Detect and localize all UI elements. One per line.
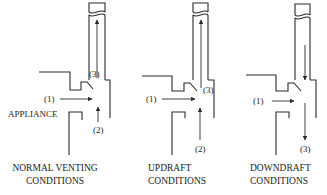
- caption-line2: CONDITIONS: [26, 176, 84, 186]
- panel-updraft: (3) (1) (2) UPDRAFT CONDITIONS: [142, 3, 214, 186]
- pipe-break: [89, 11, 105, 16]
- hood-top: [246, 75, 301, 91]
- hood-right-wall: [310, 80, 316, 118]
- label-1: (1): [44, 94, 55, 104]
- appliance-label: APPLIANCE: [8, 109, 58, 119]
- appliance-outlet: [69, 112, 82, 155]
- appliance-outlet: [172, 112, 185, 155]
- caption-line1: NORMAL VENTING: [12, 163, 97, 173]
- vent-pipe: [295, 18, 310, 80]
- label-1: (1): [253, 96, 264, 106]
- pipe-break: [193, 11, 208, 16]
- vent-pipe-top: [295, 4, 310, 15]
- caption-line1: DOWNDRAFT: [250, 163, 311, 173]
- label-1: (1): [146, 94, 157, 104]
- caption-line2: CONDITIONS: [148, 176, 206, 186]
- caption-line2: CONDITIONS: [250, 176, 308, 186]
- label-2: (2): [93, 125, 104, 135]
- hood-top: [39, 72, 93, 90]
- vent-pipe: [193, 15, 208, 80]
- hood-right-wall: [105, 80, 110, 118]
- panel-normal-venting: (3) (1) (2) APPLIANCE NORMAL VENTING CON…: [8, 3, 110, 186]
- caption-line1: UPDRAFT: [148, 163, 191, 173]
- panel-downdraft: (1) (3) DOWNDRAFT CONDITIONS: [246, 4, 316, 186]
- draft-hood-diagram: (3) (1) (2) APPLIANCE NORMAL VENTING CON…: [0, 0, 327, 195]
- appliance-outlet: [276, 112, 289, 155]
- pipe-break: [295, 14, 310, 19]
- label-3: (3): [89, 69, 100, 79]
- label-3: (3): [300, 144, 311, 154]
- hood-top: [142, 76, 197, 91]
- label-3: (3): [203, 85, 214, 95]
- label-2: (2): [195, 144, 206, 154]
